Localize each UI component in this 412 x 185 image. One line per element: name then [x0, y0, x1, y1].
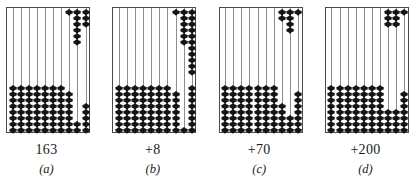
- abacus-bead-lower[interactable]: [254, 109, 260, 115]
- abacus-bead-lower[interactable]: [393, 115, 399, 121]
- abacus-bead-lower[interactable]: [222, 85, 228, 91]
- abacus-bead-lower[interactable]: [271, 103, 277, 109]
- abacus-bead-lower[interactable]: [336, 127, 342, 133]
- abacus-bead-lower[interactable]: [353, 127, 359, 133]
- abacus-bead-lower[interactable]: [262, 91, 268, 97]
- abacus-bead-lower[interactable]: [254, 121, 260, 127]
- abacus-bead-lower[interactable]: [401, 103, 407, 109]
- abacus-bead-upper[interactable]: [66, 9, 72, 15]
- abacus-bead-lower[interactable]: [361, 91, 367, 97]
- abacus-bead-lower[interactable]: [336, 115, 342, 121]
- abacus-bead-lower[interactable]: [361, 127, 367, 133]
- abacus-bead-lower[interactable]: [148, 85, 154, 91]
- abacus-bead-lower[interactable]: [156, 91, 162, 97]
- abacus-bead-lower[interactable]: [344, 127, 350, 133]
- abacus-bead-lower[interactable]: [401, 115, 407, 121]
- abacus-bead-lower[interactable]: [180, 127, 186, 133]
- abacus-bead-lower[interactable]: [25, 121, 31, 127]
- abacus-bead-lower[interactable]: [17, 91, 23, 97]
- abacus-bead-lower[interactable]: [164, 115, 170, 121]
- abacus-bead-lower[interactable]: [172, 109, 178, 115]
- abacus-bead-lower[interactable]: [295, 103, 301, 109]
- abacus-bead-lower[interactable]: [164, 109, 170, 115]
- abacus-bead-lower[interactable]: [17, 103, 23, 109]
- abacus-bead-lower[interactable]: [238, 103, 244, 109]
- abacus-bead-lower[interactable]: [189, 91, 195, 97]
- abacus-bead-lower[interactable]: [34, 85, 40, 91]
- abacus-bead-lower[interactable]: [230, 115, 236, 121]
- abacus-bead-lower[interactable]: [66, 121, 72, 127]
- abacus-bead-lower[interactable]: [34, 103, 40, 109]
- abacus-bead-lower[interactable]: [222, 91, 228, 97]
- abacus-bead-lower[interactable]: [369, 85, 375, 91]
- abacus-bead-lower[interactable]: [287, 127, 293, 133]
- abacus-bead-lower[interactable]: [353, 85, 359, 91]
- abacus-bead-lower[interactable]: [254, 103, 260, 109]
- abacus-bead-lower[interactable]: [140, 103, 146, 109]
- abacus-bead-lower[interactable]: [156, 97, 162, 103]
- abacus-bead-lower[interactable]: [42, 115, 48, 121]
- abacus-bead-lower[interactable]: [140, 91, 146, 97]
- abacus-bead-lower[interactable]: [66, 97, 72, 103]
- abacus-bead-lower[interactable]: [246, 85, 252, 91]
- abacus-bead-lower[interactable]: [116, 85, 122, 91]
- abacus-bead-lower[interactable]: [25, 115, 31, 121]
- abacus-bead-lower[interactable]: [66, 103, 72, 109]
- abacus-bead-lower[interactable]: [246, 103, 252, 109]
- abacus-bead-upper[interactable]: [189, 69, 195, 75]
- abacus-bead-lower[interactable]: [132, 103, 138, 109]
- abacus-bead-lower[interactable]: [172, 97, 178, 103]
- abacus-bead-lower[interactable]: [156, 115, 162, 121]
- abacus-bead-lower[interactable]: [353, 115, 359, 121]
- abacus-bead-lower[interactable]: [328, 97, 334, 103]
- abacus-bead-lower[interactable]: [25, 103, 31, 109]
- abacus-bead-lower[interactable]: [50, 127, 56, 133]
- abacus-bead-lower[interactable]: [164, 97, 170, 103]
- abacus-bead-lower[interactable]: [230, 85, 236, 91]
- abacus-bead-lower[interactable]: [369, 121, 375, 127]
- abacus-bead-lower[interactable]: [254, 115, 260, 121]
- abacus-bead-lower[interactable]: [377, 91, 383, 97]
- abacus-bead-lower[interactable]: [116, 127, 122, 133]
- abacus-bead-upper[interactable]: [385, 9, 391, 15]
- abacus-bead-lower[interactable]: [271, 91, 277, 97]
- abacus-bead-lower[interactable]: [25, 91, 31, 97]
- abacus-bead-lower[interactable]: [344, 103, 350, 109]
- abacus-bead-lower[interactable]: [164, 121, 170, 127]
- abacus-bead-lower[interactable]: [230, 91, 236, 97]
- abacus-bead-lower[interactable]: [116, 97, 122, 103]
- abacus-bead-lower[interactable]: [156, 127, 162, 133]
- abacus-bead-lower[interactable]: [148, 91, 154, 97]
- abacus-bead-lower[interactable]: [156, 103, 162, 109]
- abacus-bead-lower[interactable]: [74, 121, 80, 127]
- abacus-bead-lower[interactable]: [246, 121, 252, 127]
- abacus-bead-lower[interactable]: [369, 109, 375, 115]
- abacus-bead-lower[interactable]: [295, 127, 301, 133]
- abacus-bead-lower[interactable]: [254, 127, 260, 133]
- abacus-bead-lower[interactable]: [344, 109, 350, 115]
- abacus-bead-lower[interactable]: [361, 109, 367, 115]
- abacus-bead-lower[interactable]: [34, 91, 40, 97]
- abacus-bead-lower[interactable]: [271, 85, 277, 91]
- abacus-bead-lower[interactable]: [189, 103, 195, 109]
- abacus-bead-lower[interactable]: [238, 121, 244, 127]
- abacus-bead-lower[interactable]: [116, 91, 122, 97]
- abacus-bead-lower[interactable]: [222, 103, 228, 109]
- abacus-bead-lower[interactable]: [328, 109, 334, 115]
- abacus-bead-lower[interactable]: [124, 97, 130, 103]
- abacus-bead-lower[interactable]: [58, 127, 64, 133]
- abacus-bead-lower[interactable]: [116, 109, 122, 115]
- abacus-bead-lower[interactable]: [353, 103, 359, 109]
- abacus-bead-lower[interactable]: [66, 91, 72, 97]
- abacus-bead-lower[interactable]: [189, 97, 195, 103]
- abacus-bead-lower[interactable]: [369, 127, 375, 133]
- abacus-bead-lower[interactable]: [230, 103, 236, 109]
- abacus-bead-lower[interactable]: [42, 109, 48, 115]
- abacus-bead-lower[interactable]: [222, 127, 228, 133]
- abacus-bead-lower[interactable]: [279, 115, 285, 121]
- abacus-bead-lower[interactable]: [116, 121, 122, 127]
- abacus-bead-lower[interactable]: [50, 85, 56, 91]
- abacus-bead-upper[interactable]: [385, 21, 391, 27]
- abacus-bead-lower[interactable]: [42, 127, 48, 133]
- abacus-bead-lower[interactable]: [369, 91, 375, 97]
